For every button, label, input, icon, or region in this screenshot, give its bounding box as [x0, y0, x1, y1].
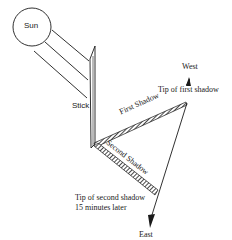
shadow-stick-diagram: Sun Stick West Tip of first shadow First…	[0, 0, 232, 240]
sun-rays	[34, 30, 89, 98]
west-label: West	[182, 62, 198, 72]
stick	[90, 46, 95, 148]
tip-second-time-label: 15 minutes later	[75, 203, 127, 213]
sun-label: Sun	[24, 21, 38, 31]
east-label: East	[139, 230, 153, 240]
stick-label: Stick	[72, 101, 89, 111]
tip-first-shadow-label: Tip of first shadow	[158, 85, 219, 95]
tip-second-shadow-label: Tip of second shadow	[75, 193, 145, 203]
east-arrow-icon	[148, 214, 155, 228]
